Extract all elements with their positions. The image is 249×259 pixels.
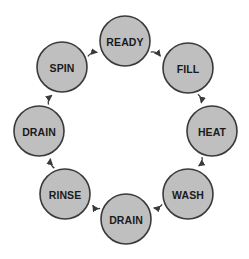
node-label-wash: WASH [172,189,204,201]
edge-drain-rinse [93,205,100,208]
node-spin[interactable]: SPIN [37,42,87,92]
edge-wash-drain [154,204,162,208]
edge-ready-fill [151,52,161,56]
node-label-drain_left: DRAIN [22,126,56,138]
edge-spin-ready [88,52,97,56]
node-heat[interactable]: HEAT [187,106,237,156]
node-label-spin: SPIN [50,62,75,74]
node-drain_left[interactable]: DRAIN [14,106,64,156]
edge-drain-spin [48,95,52,104]
node-label-fill: FILL [177,63,200,75]
node-rinse[interactable]: RINSE [40,169,90,219]
edge-heat-wash [199,157,203,166]
node-fill[interactable]: FILL [163,43,213,93]
cycle-diagram: READYFILLHEATWASHDRAINRINSEDRAINSPIN [0,0,249,259]
node-label-heat: HEAT [198,126,227,138]
nodes-group: READYFILLHEATWASHDRAINRINSEDRAINSPIN [14,16,237,244]
node-wash[interactable]: WASH [163,169,213,219]
node-label-drain_bottom: DRAIN [109,214,143,226]
node-label-rinse: RINSE [49,189,82,201]
cycle-diagram-svg: READYFILLHEATWASHDRAINRINSEDRAINSPIN [0,0,249,259]
node-label-ready: READY [106,36,143,48]
node-drain_bottom[interactable]: DRAIN [101,194,151,244]
edge-rinse-drain [50,159,54,168]
node-ready[interactable]: READY [100,16,150,66]
edge-fill-heat [198,94,202,103]
